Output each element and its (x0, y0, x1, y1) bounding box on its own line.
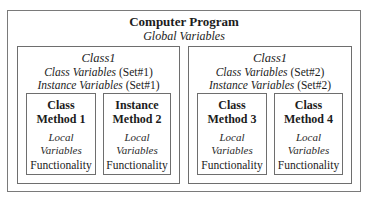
method-box-3: ClassMethod 3 LocalVariables Functionali… (197, 93, 267, 175)
functionality-label: Functionality (275, 159, 342, 172)
method-box-4: ClassMethod 4 LocalVariables Functionali… (274, 93, 343, 175)
instance-variables-label: Instance Variables (37, 79, 122, 91)
class-name: Class1 (189, 52, 351, 65)
method-title: ClassMethod 1 (27, 98, 95, 126)
class-variables-line: Class Variables (Set#1) (18, 66, 179, 79)
method-title: ClassMethod 4 (275, 98, 342, 126)
class-name: Class1 (18, 52, 179, 65)
method-box-2: InstanceMethod 2 LocalVariables Function… (103, 93, 171, 175)
class-variables-line: Class Variables (Set#2) (189, 66, 351, 79)
functionality-label: Functionality (198, 159, 266, 172)
class-variables-label: Class Variables (216, 66, 288, 78)
method-title: InstanceMethod 2 (104, 98, 170, 126)
method-title: ClassMethod 3 (198, 98, 266, 126)
instance-variables-line: Instance Variables (Set#2) (189, 79, 351, 92)
class-variables-set: (Set#2) (288, 66, 325, 78)
program-title: Computer Program (8, 15, 360, 29)
class-variables-set: (Set#1) (116, 66, 153, 78)
global-variables-label: Global Variables (8, 30, 360, 43)
class-variables-label: Class Variables (44, 66, 116, 78)
local-variables: LocalVariables (27, 131, 95, 157)
instance-variables-set: (Set#2) (294, 79, 331, 91)
local-variables: LocalVariables (275, 131, 342, 157)
instance-variables-set: (Set#1) (123, 79, 160, 91)
local-variables: LocalVariables (198, 131, 266, 157)
method-box-1: ClassMethod 1 LocalVariables Functionali… (26, 93, 96, 175)
instance-variables-label: Instance Variables (209, 79, 294, 91)
functionality-label: Functionality (104, 159, 170, 172)
functionality-label: Functionality (27, 159, 95, 172)
instance-variables-line: Instance Variables (Set#1) (18, 79, 179, 92)
local-variables: LocalVariables (104, 131, 170, 157)
